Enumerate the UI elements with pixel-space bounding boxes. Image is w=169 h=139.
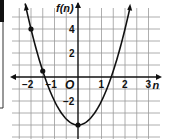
y-tick-label: 4 — [69, 24, 75, 35]
axes — [10, 2, 162, 139]
y-axis-arrow-up-icon — [75, 2, 81, 8]
origin-label: O — [65, 78, 75, 92]
data-point — [75, 122, 80, 127]
grid — [12, 8, 160, 139]
data-point — [28, 26, 33, 31]
y-axis-label: f(n) — [56, 2, 74, 14]
x-tick-label: 2 — [122, 79, 128, 90]
parabola-graph: −2−112342−2Onf(n) — [0, 0, 169, 139]
y-tick-label: 2 — [69, 48, 75, 59]
x-axis-label: n — [153, 79, 160, 91]
y-tick-label: −2 — [63, 96, 75, 107]
data-point — [40, 68, 45, 73]
x-tick-label: 1 — [99, 79, 105, 90]
x-tick-label: 3 — [146, 79, 152, 90]
x-tick-label: −2 — [22, 79, 34, 90]
frame-bar — [0, 0, 4, 22]
x-tick-label: −1 — [46, 79, 58, 90]
x-axis-arrow-left-icon — [10, 74, 16, 80]
